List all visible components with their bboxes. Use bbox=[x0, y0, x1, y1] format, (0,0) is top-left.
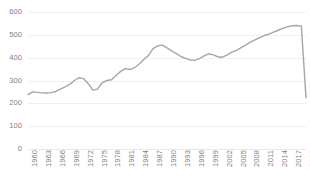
x-tick-label: 1993 bbox=[184, 150, 192, 167]
x-tick-label: 1987 bbox=[156, 150, 164, 167]
x-tick-label: 2020 bbox=[309, 150, 310, 167]
line-chart: 6005004003002001000 19601963196619691972… bbox=[0, 0, 310, 181]
x-tick-label: 2005 bbox=[240, 150, 248, 167]
y-tick-label: 0 bbox=[18, 145, 22, 153]
y-tick-label: 100 bbox=[9, 122, 22, 130]
x-tick-label: 2014 bbox=[281, 150, 289, 167]
x-tick-label: 1981 bbox=[128, 150, 136, 167]
x-tick-label: 1969 bbox=[73, 150, 81, 167]
y-tick-label: 300 bbox=[9, 77, 22, 85]
y-tick-label: 200 bbox=[9, 100, 22, 108]
plot-area bbox=[28, 12, 306, 149]
x-tick-label: 1975 bbox=[101, 150, 109, 167]
x-tick-label: 1972 bbox=[87, 150, 95, 167]
x-tick-label: 2008 bbox=[253, 150, 261, 167]
x-tick-label: 1963 bbox=[45, 150, 53, 167]
x-tick-label: 1960 bbox=[31, 150, 39, 167]
y-tick-label: 500 bbox=[9, 31, 22, 39]
x-tick-label: 1978 bbox=[114, 150, 122, 167]
x-tick-label: 2017 bbox=[295, 150, 303, 167]
x-tick-label: 1966 bbox=[59, 150, 67, 167]
y-tick-label: 600 bbox=[9, 8, 22, 16]
x-tick-label: 1999 bbox=[212, 150, 220, 167]
x-tick-label: 1984 bbox=[142, 150, 150, 167]
x-tick-label: 2011 bbox=[267, 150, 275, 167]
series-polyline bbox=[28, 25, 306, 97]
x-tick-label: 1996 bbox=[198, 150, 206, 167]
x-axis-labels: 1960196319661969197219751978198119841987… bbox=[28, 150, 306, 181]
y-tick-label: 400 bbox=[9, 54, 22, 62]
x-tick-label: 2002 bbox=[226, 150, 234, 167]
x-tick-label: 1990 bbox=[170, 150, 178, 167]
y-axis-labels: 6005004003002001000 bbox=[0, 0, 26, 161]
data-series-line bbox=[28, 12, 306, 149]
